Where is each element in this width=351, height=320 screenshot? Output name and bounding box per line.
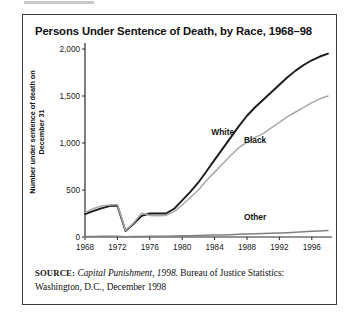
y-tick-label: 0	[75, 233, 80, 242]
page-top-artifact	[24, 0, 94, 8]
series-line-other	[85, 230, 328, 236]
series-label-black: Black	[244, 135, 267, 145]
y-tick-labels: 05001,0001,5002,000	[60, 45, 86, 242]
x-tick-label: 1968	[76, 243, 95, 252]
x-tick-label: 1992	[270, 243, 289, 252]
y-axis-title: Number under sentence of death on Decemb…	[28, 57, 46, 207]
series-label-white: White	[211, 127, 234, 137]
source-note: SOURCE: Capital Punishment, 1998. Bureau…	[35, 267, 327, 294]
y-tick-label: 1,500	[60, 92, 81, 101]
x-tick-label: 1976	[141, 243, 160, 252]
source-label: SOURCE:	[35, 268, 75, 278]
x-tick-labels: 19681972197619801984198819921996	[76, 237, 321, 252]
data-series-group	[85, 54, 328, 237]
chart-plot-area: Number under sentence of death on Decemb…	[23, 15, 336, 304]
x-tick-label: 1984	[205, 243, 224, 252]
x-tick-label: 1980	[173, 243, 192, 252]
figure-frame: Persons Under Sentence of Death, by Race…	[22, 14, 337, 305]
source-title: Capital Punishment, 1998.	[77, 268, 178, 278]
x-tick-label: 1996	[303, 243, 322, 252]
line-chart-svg: 05001,0001,5002,000 19681972197619801984…	[23, 15, 336, 263]
series-label-other: Other	[244, 212, 267, 222]
y-tick-label: 500	[66, 186, 80, 195]
series-line-white	[85, 54, 328, 231]
x-tick-label: 1972	[108, 243, 127, 252]
series-line-black	[85, 96, 328, 230]
x-tick-label: 1988	[238, 243, 257, 252]
y-tick-label: 2,000	[60, 45, 81, 54]
series-annotations: WhiteBlackOther	[211, 127, 267, 221]
y-tick-label: 1,000	[60, 139, 81, 148]
